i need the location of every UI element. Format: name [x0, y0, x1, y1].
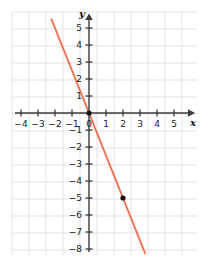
x-axis-tick-label: 4 — [154, 119, 160, 129]
y-axis-tick-label: 2 — [76, 74, 82, 84]
y-axis-name: y — [78, 8, 86, 19]
graph-canvas: −4−3−2−101234554321−1−2−3−4−5−6−7−8xy — [0, 0, 204, 266]
y-axis-tick-label: −2 — [69, 142, 82, 152]
y-axis-tick-label: −7 — [69, 227, 82, 237]
x-axis-tick-label: −4 — [14, 119, 28, 129]
y-axis-tick-label: 1 — [76, 91, 82, 101]
x-axis-tick-label: 2 — [120, 119, 126, 129]
coordinate-plane-figure: −4−3−2−101234554321−1−2−3−4−5−6−7−8xy — [0, 0, 204, 266]
x-axis-tick-label: −3 — [31, 119, 44, 129]
y-axis-tick-label: −6 — [69, 210, 83, 220]
x-axis-tick-label: 5 — [171, 119, 177, 129]
x-axis-tick-label: 3 — [137, 119, 143, 129]
y-axis-tick-label: −5 — [69, 193, 82, 203]
data-point-marker — [86, 110, 91, 115]
x-axis-tick-label: 1 — [103, 119, 109, 129]
data-point-marker — [120, 195, 125, 200]
y-axis-tick-label: 4 — [76, 40, 82, 50]
y-axis-tick-label: −8 — [69, 244, 83, 254]
y-axis-tick-label: −1 — [69, 125, 82, 135]
y-axis-tick-label: 3 — [76, 57, 82, 67]
y-axis-tick-label: −4 — [69, 176, 83, 186]
y-axis-tick-label: 5 — [76, 23, 82, 33]
chart-background — [0, 0, 204, 266]
y-axis-tick-label: −3 — [69, 159, 82, 169]
x-axis-tick-label: 0 — [86, 119, 92, 129]
x-axis-tick-label: −2 — [48, 119, 61, 129]
x-axis-name: x — [189, 117, 197, 128]
